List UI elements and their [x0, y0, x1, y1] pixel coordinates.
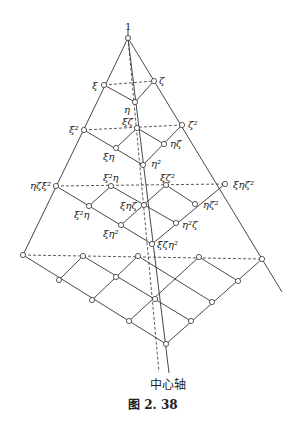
node-eta2zeta — [173, 220, 178, 225]
node-xieta2 — [118, 222, 123, 227]
label-eta: η — [124, 104, 130, 115]
node-r7a — [126, 318, 131, 323]
label-xizetaeta2: ξζη² — [157, 239, 178, 250]
label-etazeta: ηζ — [170, 138, 182, 149]
node-r4e — [259, 256, 264, 261]
node-etazeta — [161, 141, 166, 146]
node-r5c — [235, 278, 240, 283]
node-bottom — [163, 341, 168, 346]
node-r4a — [20, 252, 25, 257]
label-xieta2: ξη² — [103, 228, 119, 239]
node-r6a — [89, 297, 94, 302]
label-eta2: η² — [151, 158, 161, 169]
node-r5a — [56, 277, 61, 282]
label-etazeta2: ηζ² — [203, 199, 218, 210]
label-one: 1 — [125, 21, 131, 32]
label-xizeta: ξζ — [122, 116, 134, 127]
node-r7b — [188, 318, 193, 323]
node-apex — [125, 35, 130, 40]
node-r4c — [135, 253, 140, 258]
label-xi: ξ — [92, 80, 98, 91]
node-zeta2 — [179, 122, 184, 127]
node-xi2eta_top — [108, 183, 113, 188]
pyramid-lattice-diagram: 1 ξ ζ η ξ² ξζ ζ² ξη ηζ η² ηζξ² ξ²η ξζ² ξ… — [0, 0, 298, 427]
center-axis-label: 中心轴 — [150, 377, 186, 392]
label-zeta2: ζ² — [188, 119, 197, 130]
label-xi2eta-top: ξ²η — [103, 172, 119, 183]
node-eta2 — [140, 162, 145, 167]
label-xi2eta: ξ²η — [74, 209, 90, 220]
node-xizeta2 — [163, 182, 168, 187]
node-xizetaeta2 — [149, 241, 154, 246]
node-xi2eta — [86, 203, 91, 208]
node-r6b — [152, 296, 157, 301]
node-xizeta — [134, 125, 139, 130]
node-r4d — [196, 254, 201, 259]
label-xietazeta2: ξηζ² — [233, 179, 254, 190]
node-etazetaxi2 — [53, 183, 58, 188]
node-xi — [101, 82, 106, 87]
label-eta2zeta: η²ζ — [182, 219, 198, 230]
node-xietazeta — [141, 202, 146, 207]
node-zeta — [151, 78, 156, 83]
node-xi2 — [81, 127, 86, 132]
figure-caption: 图 2. 38 — [128, 398, 178, 412]
node-eta — [132, 99, 137, 104]
label-xi2: ξ² — [69, 124, 79, 135]
label-xizeta2: ξζ² — [160, 172, 175, 183]
label-xietazeta: ξηζ — [120, 200, 137, 211]
node-xieta — [113, 145, 118, 150]
node-r6c — [209, 299, 214, 304]
lattice-nodes — [20, 35, 264, 346]
node-r4b — [80, 253, 85, 258]
label-etazetaxi2: ηζξ² — [30, 180, 51, 191]
node-xietazeta2 — [222, 181, 227, 186]
node-etazeta2 — [192, 201, 197, 206]
node-r5b — [113, 274, 118, 279]
label-zeta: ζ — [159, 75, 165, 86]
label-xieta: ξη — [103, 151, 115, 162]
